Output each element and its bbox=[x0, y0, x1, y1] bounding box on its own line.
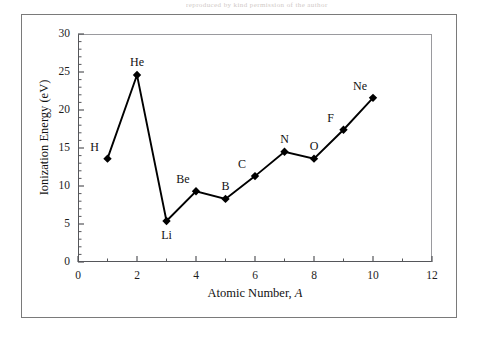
data-point-marker bbox=[103, 154, 111, 162]
x-tick-label: 0 bbox=[58, 269, 98, 281]
data-point-label: Be bbox=[169, 172, 197, 187]
data-point-label: Ne bbox=[346, 79, 374, 94]
x-tick-label: 6 bbox=[235, 269, 275, 281]
data-point-label: O bbox=[300, 139, 328, 154]
data-point-label: B bbox=[212, 179, 240, 194]
data-point-label: Li bbox=[153, 228, 181, 243]
y-axis-title: Ionization Energy (eV) bbox=[37, 58, 52, 218]
data-point-label: He bbox=[123, 55, 151, 70]
series-marker-group bbox=[103, 71, 377, 225]
x-axis-title-symbol: A bbox=[295, 286, 303, 300]
x-tick-label: 12 bbox=[412, 269, 452, 281]
x-axis-title-text: Atomic Number, bbox=[208, 286, 295, 300]
data-point-marker bbox=[133, 71, 141, 79]
y-tick-label: 30 bbox=[32, 27, 70, 39]
y-tick-label: 5 bbox=[32, 217, 70, 229]
data-point-label: N bbox=[271, 132, 299, 147]
x-tick-label: 4 bbox=[176, 269, 216, 281]
series-line-first-ionization-energy bbox=[108, 75, 374, 221]
x-tick-label: 2 bbox=[117, 269, 157, 281]
data-point-label: H bbox=[81, 140, 109, 155]
data-point-label: C bbox=[228, 157, 256, 172]
data-point-label: F bbox=[317, 111, 345, 126]
y-tick-label: 0 bbox=[32, 255, 70, 267]
x-major-tick-group bbox=[78, 256, 432, 262]
x-axis-title: Atomic Number, A bbox=[78, 286, 432, 301]
x-tick-label: 8 bbox=[294, 269, 334, 281]
x-tick-label: 10 bbox=[353, 269, 393, 281]
